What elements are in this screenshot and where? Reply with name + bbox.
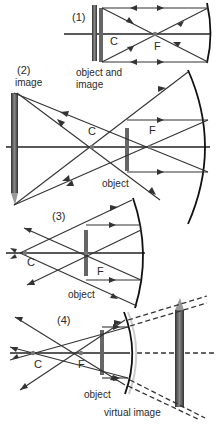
ray — [10, 327, 128, 360]
arrow-icon — [157, 117, 164, 123]
arrow-icon — [27, 279, 35, 285]
arrow-icon — [157, 5, 164, 11]
arrow-icon — [57, 119, 65, 127]
center-point — [90, 145, 94, 149]
focus-point — [79, 351, 83, 355]
arrow-icon — [60, 111, 69, 117]
arrow-icon — [62, 175, 70, 181]
virtual-ray — [128, 296, 207, 320]
concave-mirror-diagram: (1) C F object and image (2) image — [0, 0, 217, 428]
arrow-icon — [157, 59, 164, 65]
arrow-icon — [109, 277, 116, 283]
focus-label: F — [78, 358, 85, 370]
panel-3: (3) C F object — [6, 198, 145, 308]
focus-label: F — [154, 40, 161, 52]
pencil-virtual-image — [175, 310, 184, 407]
panel-number: (3) — [52, 210, 65, 222]
focus-point — [148, 145, 152, 149]
virtual-image-label: virtual image — [104, 407, 161, 418]
panel-number: (2) — [17, 64, 30, 76]
center-label: C — [27, 256, 35, 268]
arrow-icon — [157, 169, 164, 175]
panel-2: (2) image C F object — [6, 64, 210, 224]
concave-mirror — [207, 3, 211, 63]
panel-number: (4) — [57, 314, 70, 326]
arrow-icon — [130, 5, 137, 11]
pencil-object — [125, 128, 129, 171]
arrow-icon — [20, 383, 28, 390]
panel-1: (1) C F object and image — [64, 3, 211, 90]
object-label: object — [84, 389, 111, 400]
center-label: C — [110, 35, 118, 47]
focus-label: F — [149, 124, 156, 136]
center-label: C — [88, 125, 96, 137]
center-point — [23, 251, 27, 255]
object-label: object — [102, 178, 129, 189]
focus-point — [153, 32, 157, 36]
arrow-icon — [10, 347, 18, 352]
arrow-icon — [130, 59, 137, 65]
arrow-icon — [110, 205, 118, 211]
arrow-icon — [24, 228, 32, 233]
center-point — [31, 351, 35, 355]
panel-4: (4) C F object virtual image — [10, 296, 217, 420]
ray — [20, 320, 125, 390]
ray — [14, 72, 188, 205]
ray — [24, 228, 141, 280]
focus-point — [84, 251, 88, 255]
pencil-image — [99, 8, 103, 62]
arrow-icon — [158, 86, 166, 92]
center-label: C — [34, 358, 42, 370]
focus-label: F — [97, 265, 104, 277]
image-label: image — [15, 77, 43, 88]
object-label: object and — [76, 67, 122, 78]
arrow-icon — [10, 248, 17, 253]
arrow-icon — [109, 222, 116, 228]
arrow-icon — [10, 254, 17, 259]
virtual-ray — [130, 303, 207, 326]
object-label-line2: image — [76, 79, 104, 90]
arrow-icon — [126, 17, 134, 24]
pencil-image — [11, 93, 18, 193]
panel-number: (1) — [72, 11, 85, 23]
pencil-object — [92, 5, 97, 61]
object-label: object — [68, 289, 95, 300]
ray — [10, 347, 128, 378]
